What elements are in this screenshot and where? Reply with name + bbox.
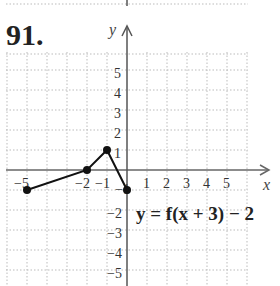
x-tick: 2 [163, 176, 170, 191]
x-axis-label: x [262, 176, 270, 193]
x-tick: −2 [75, 176, 90, 191]
x-tick: 1 [143, 176, 150, 191]
data-point [103, 146, 111, 154]
data-point [123, 186, 131, 194]
x-tick: −1 [95, 176, 110, 191]
y-tick: −5 [107, 266, 122, 281]
data-point [83, 166, 91, 174]
x-tick: 4 [203, 176, 210, 191]
x-tick: 5 [223, 176, 230, 191]
y-tick: 3 [114, 106, 121, 121]
x-tick: 3 [183, 176, 190, 191]
y-tick: −3 [107, 226, 122, 241]
y-axis-label: y [107, 21, 117, 39]
y-tick: 1 [114, 146, 121, 161]
y-tick: 5 [114, 66, 121, 81]
y-tick: 2 [114, 126, 121, 141]
equation-label: y = f(x + 3) − 2 [136, 203, 254, 225]
graph: y x 5 4 3 2 1 −2 −2 −3 −4 −5 −5 −2 −1 −1… [0, 0, 280, 286]
y-tick: −4 [107, 246, 122, 261]
y-tick: 4 [114, 86, 121, 101]
y-tick: −2 [107, 206, 122, 221]
data-point [23, 186, 31, 194]
